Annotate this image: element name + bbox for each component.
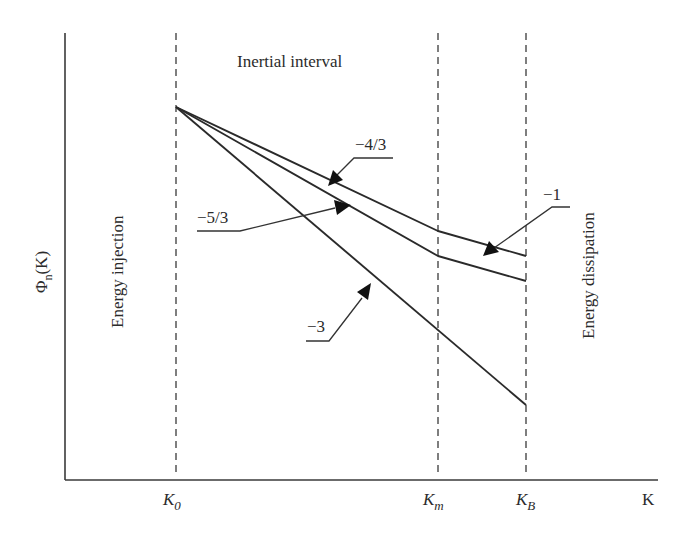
label-slope-3: −3 bbox=[307, 317, 325, 336]
x-axis-label: K bbox=[642, 490, 655, 509]
y-axis-label-arg: (K) bbox=[32, 251, 51, 275]
tick-label-km: Km bbox=[422, 490, 444, 513]
region-label-injection: Energy injection bbox=[108, 215, 127, 328]
region-label-dissipation: Energy dissipation bbox=[579, 212, 598, 339]
arrowhead-4-3-icon bbox=[328, 170, 343, 186]
arrowhead-3-icon bbox=[357, 283, 371, 300]
label-slope-1: −1 bbox=[543, 185, 561, 204]
tick-k0-sub: 0 bbox=[174, 498, 181, 513]
region-label-inertial: Inertial interval bbox=[237, 52, 343, 71]
tick-kb-sub: B bbox=[527, 498, 535, 513]
tick-label-k0: K0 bbox=[162, 490, 181, 513]
curve-slope-3 bbox=[176, 107, 526, 405]
label-slope-5-3: −5/3 bbox=[197, 208, 228, 227]
leader-4-3 bbox=[336, 158, 393, 176]
y-axis-label-main: Φ bbox=[32, 281, 51, 293]
leader-1 bbox=[494, 207, 570, 248]
tick-label-kb: KB bbox=[515, 490, 535, 513]
tick-km-sub: m bbox=[434, 498, 443, 513]
spectrum-diagram: −4/3 −5/3 −1 −3 Inertial interval Energy… bbox=[0, 0, 692, 539]
label-slope-4-3: −4/3 bbox=[355, 135, 386, 154]
y-axis-label: Φn(K) bbox=[32, 251, 55, 293]
curve-slope-4-3-then-1 bbox=[176, 107, 526, 256]
